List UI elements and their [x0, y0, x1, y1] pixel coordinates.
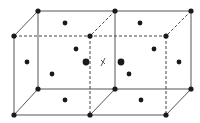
corner-atom — [87, 112, 92, 117]
cross-marker-icon — [101, 58, 105, 66]
cell-edge — [14, 89, 38, 115]
marker-stroke — [101, 60, 105, 64]
fcc-unit-cells-diagram — [0, 0, 200, 123]
corner-atom — [35, 8, 40, 13]
corner-atom — [163, 33, 168, 38]
face-center-atom — [139, 98, 144, 103]
cell-edge — [90, 89, 115, 115]
hidden-edge — [90, 11, 115, 36]
hidden-edge — [166, 11, 191, 36]
face-center-atom — [63, 98, 68, 103]
face-center-atom — [50, 72, 55, 77]
corner-atom — [11, 112, 16, 117]
face-center-atom — [138, 21, 143, 26]
face-center-atom — [74, 47, 79, 52]
corner-atom — [163, 112, 168, 117]
face-center-atom — [83, 59, 90, 66]
corner-atom — [87, 33, 92, 38]
cell-edge — [166, 89, 191, 115]
face-center-atom — [63, 21, 68, 26]
face-center-atom — [25, 60, 30, 65]
corner-atom — [188, 8, 193, 13]
cell-edge — [14, 11, 38, 36]
face-center-atom — [152, 47, 157, 52]
corner-atom — [188, 86, 193, 91]
corner-atom — [35, 86, 40, 91]
corner-atom — [11, 33, 16, 38]
corner-atom — [112, 8, 117, 13]
face-center-atom — [118, 59, 125, 66]
face-center-atom — [177, 60, 182, 65]
face-center-atom — [127, 72, 132, 77]
corner-atom — [112, 86, 117, 91]
